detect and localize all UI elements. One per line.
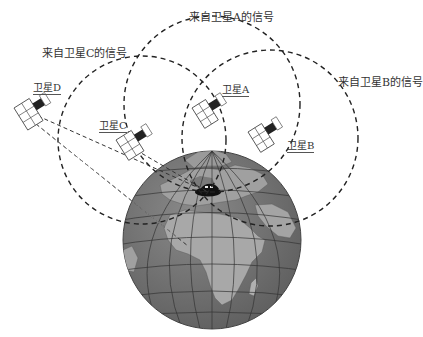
signal-label-b: 来自卫星B的信号 [338,77,423,89]
signal-label-a: 来自卫星A的信号 [189,12,274,24]
satellite-label-c: 卫星C [99,120,127,133]
satellite-b-icon [248,115,288,152]
satellite-label-d: 卫星D [33,82,61,95]
signal-label-c: 来自卫星C的信号 [42,48,127,60]
satellite-label-a: 卫星A [222,84,249,97]
satellite-d-icon [14,90,57,130]
satellite-label-b: 卫星B [287,140,314,153]
earth-globe [110,150,314,329]
